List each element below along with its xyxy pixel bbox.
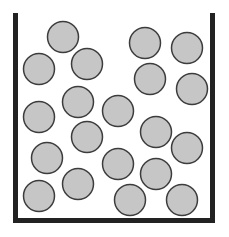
particle — [130, 28, 161, 59]
particle — [24, 181, 55, 212]
particle — [177, 74, 208, 105]
particle — [63, 87, 94, 118]
particle — [72, 122, 103, 153]
container-left-wall — [13, 13, 18, 223]
container-right-wall — [210, 13, 215, 223]
particle — [135, 64, 166, 95]
particle — [72, 49, 103, 80]
particle — [24, 102, 55, 133]
particles-group — [24, 22, 208, 216]
particle — [103, 149, 134, 180]
particle — [63, 169, 94, 200]
particle — [103, 96, 134, 127]
particle — [115, 185, 146, 216]
particle — [48, 22, 79, 53]
particle — [141, 159, 172, 190]
particles-in-container-diagram — [0, 0, 229, 237]
particle — [167, 185, 198, 216]
particle — [172, 33, 203, 64]
particle — [24, 54, 55, 85]
container-floor — [13, 218, 215, 223]
particle — [141, 117, 172, 148]
particle — [172, 133, 203, 164]
diagram-canvas — [0, 0, 229, 237]
particle — [32, 143, 63, 174]
